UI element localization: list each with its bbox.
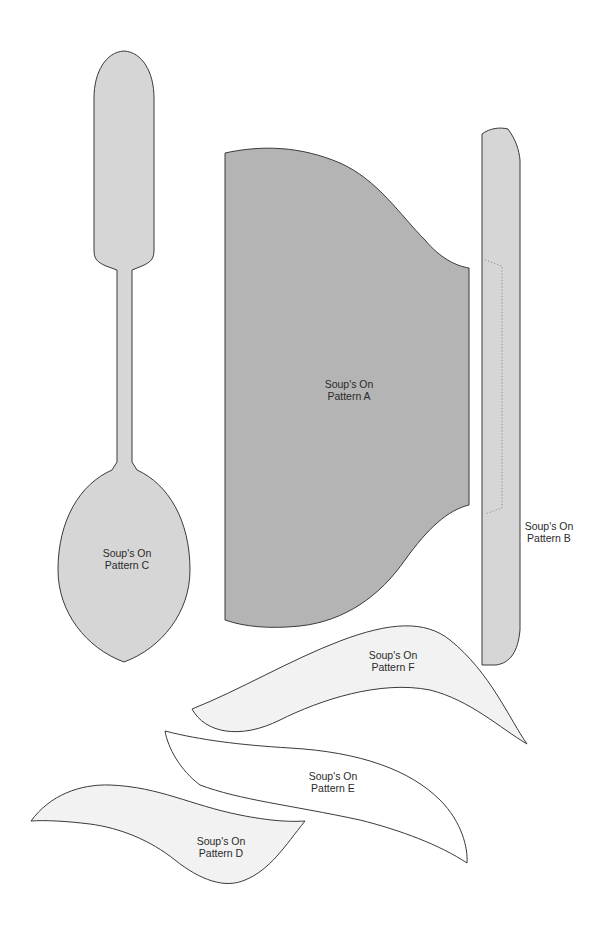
pattern-c-name: Pattern C [103,559,152,571]
pattern-c-title: Soup's On [103,547,152,559]
pattern-b-shape [482,128,520,665]
pattern-a-title: Soup's On [325,378,374,390]
pattern-f-name: Pattern F [369,661,418,673]
pattern-f-label: Soup's On Pattern F [369,649,418,673]
pattern-e-label: Soup's On Pattern E [309,770,358,794]
pattern-d-title: Soup's On [197,835,246,847]
pattern-f-title: Soup's On [369,649,418,661]
pattern-d-name: Pattern D [197,847,246,859]
pattern-b-name: Pattern B [525,532,574,544]
pattern-c-label: Soup's On Pattern C [103,547,152,571]
pattern-f-shape [192,626,527,744]
pattern-a-label: Soup's On Pattern A [325,378,374,402]
pattern-b-title: Soup's On [525,520,574,532]
pattern-sheet [0,0,612,936]
pattern-a-name: Pattern A [325,390,374,402]
pattern-d-label: Soup's On Pattern D [197,835,246,859]
pattern-e-title: Soup's On [309,770,358,782]
pattern-e-name: Pattern E [309,782,358,794]
pattern-b-label: Soup's On Pattern B [525,520,574,544]
